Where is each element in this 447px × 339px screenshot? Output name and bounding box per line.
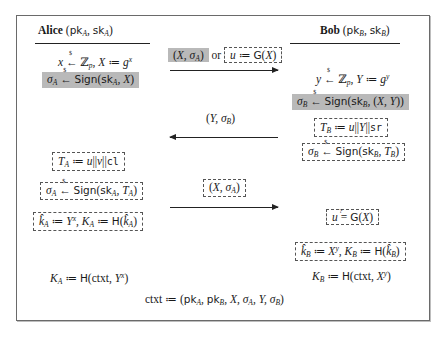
context-definition: ctxt ≔ (pkA, pkB, X, σA, Y, σB): [145, 292, 284, 307]
alice-step-session-key: KA ≔ H(ctxt, Yx): [50, 271, 128, 286]
bob-keys: (pkB, skB): [343, 24, 390, 36]
message-1-gray-part: (X, σA): [168, 48, 209, 62]
alice-step-sign-transcript: σA ←$ Sign(skA, TA): [40, 182, 143, 200]
alice-step-sample-x: x ←$ ℤp, X ≔ gx: [58, 55, 132, 70]
bob-step-sign-transcript: σB ←$ Sign(skB, TB): [302, 143, 405, 161]
alice-header-rule: [35, 43, 150, 44]
bob-step-transcript: TB ≔ u||Y||sr: [314, 118, 388, 137]
message-3-label: (X, σA): [203, 179, 246, 197]
alice-step-derive-key: k̂A ≔ Yx, KA ≔ H(k̂A): [33, 212, 143, 231]
bob-header-rule: [290, 43, 400, 44]
arrow-right-message-3: [170, 207, 278, 208]
message-2-label: (Y, σB): [206, 112, 235, 126]
alice-header: Alice (pkA, skA): [38, 24, 113, 38]
alice-step-transcript: TA ≔ u||v||cl: [52, 152, 125, 171]
bob-step-derive-key: k̂B ≔ Xy, KB ≔ H(k̂B): [295, 242, 406, 261]
bob-step-verify-commitment: u =?G(X): [326, 209, 379, 225]
bob-step-sign-xy: σB ←$ Sign(skB, (X, Y)): [292, 94, 409, 110]
message-1-or: or: [212, 49, 222, 61]
alice-name: Alice: [38, 24, 63, 36]
message-1-label: (X, σA) or u ≔ G(X): [168, 48, 282, 63]
bob-name: Bob: [320, 24, 340, 36]
bob-header: Bob (pkB, skB): [320, 24, 390, 38]
message-1-dashed-part: u ≔ G(X): [224, 47, 282, 63]
alice-step-sign-x: σA ←$ Sign(skA, X): [42, 72, 139, 88]
bob-step-session-key: KB ≔ H(ctxt, Xy): [312, 269, 391, 284]
arrow-left-message-2: [170, 137, 278, 138]
bob-step-sample-y: y ←$ ℤp, Y ≔ gy: [316, 72, 389, 87]
arrow-right-message-1: [170, 70, 278, 71]
alice-keys: (pkA, skA): [66, 24, 113, 36]
